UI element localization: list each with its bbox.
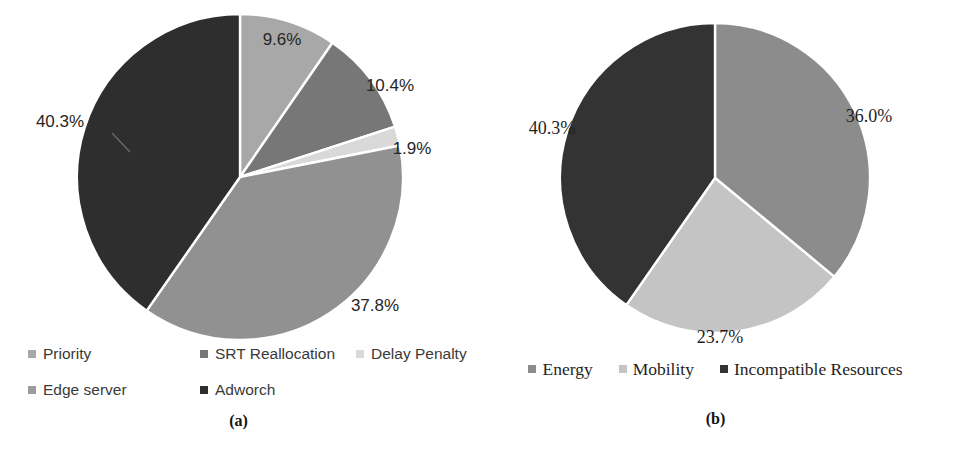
legend-item-energy[interactable]: Energy — [528, 359, 592, 380]
pie-a-slices — [77, 14, 403, 340]
legend-item-srt-reallocation[interactable]: SRT Reallocation — [200, 345, 356, 363]
legend-label-delay-penalty: Delay Penalty — [371, 345, 467, 363]
legend-item-edge-server[interactable]: Edge server — [28, 381, 200, 399]
legend-label-priority: Priority — [43, 345, 91, 363]
legend-label-adworch: Adworch — [215, 381, 275, 399]
legend-swatch-mobility — [619, 365, 627, 373]
legend-swatch-priority — [28, 350, 36, 358]
legend-label-incompatible-resources: Incompatible Resources — [734, 359, 903, 380]
pie-a-legend-row-2: Edge server Adworch — [0, 372, 477, 408]
pie-chart-panel-b: 36.0% 23.7% 40.3% Energy Mobility Incomp… — [477, 0, 954, 458]
legend-label-energy: Energy — [542, 359, 592, 380]
pie-b-value-label-mobility: 23.7% — [697, 327, 744, 347]
legend-swatch-delay-penalty — [356, 350, 364, 358]
pie-a-value-label-adworch: 40.3% — [36, 112, 84, 131]
legend-swatch-adworch — [200, 386, 208, 394]
pie-b-legend-row-1: Energy Mobility Incompatible Resources — [477, 352, 954, 386]
pie-a-value-label-srt-reallocation: 10.4% — [366, 76, 414, 95]
pie-b-value-label-incompatible-resources: 40.3% — [529, 118, 576, 138]
pie-a-value-label-priority: 9.6% — [263, 30, 302, 49]
pie-chart-b-svg: 36.0% 23.7% 40.3% — [477, 0, 954, 458]
legend-item-adworch[interactable]: Adworch — [200, 381, 356, 399]
legend-item-priority[interactable]: Priority — [28, 345, 200, 363]
pie-chart-panel-a: 9.6% 10.4% 1.9% 37.8% 40.3% Priority SRT… — [0, 0, 477, 458]
legend-label-srt-reallocation: SRT Reallocation — [215, 345, 335, 363]
pie-a-value-label-edge-server: 37.8% — [351, 296, 399, 315]
pie-a-legend: Priority SRT Reallocation Delay Penalty … — [0, 336, 477, 408]
panel-caption-a: (a) — [0, 412, 477, 430]
pie-b-value-label-energy: 36.0% — [846, 106, 893, 126]
pie-a-legend-row-1: Priority SRT Reallocation Delay Penalty — [0, 336, 477, 372]
pie-b-legend: Energy Mobility Incompatible Resources — [477, 352, 954, 386]
pie-b-slices — [560, 23, 870, 333]
legend-swatch-incompatible-resources — [720, 365, 728, 373]
figure-root: 9.6% 10.4% 1.9% 37.8% 40.3% Priority SRT… — [0, 0, 954, 458]
legend-item-delay-penalty[interactable]: Delay Penalty — [356, 345, 467, 363]
legend-swatch-energy — [528, 365, 536, 373]
legend-swatch-srt-reallocation — [200, 350, 208, 358]
pie-a-value-label-delay-penalty: 1.9% — [393, 139, 432, 158]
legend-item-incompatible-resources[interactable]: Incompatible Resources — [720, 359, 903, 380]
panel-caption-b: (b) — [477, 410, 954, 428]
legend-label-edge-server: Edge server — [43, 381, 127, 399]
legend-swatch-edge-server — [28, 386, 36, 394]
legend-label-mobility: Mobility — [633, 359, 694, 380]
legend-item-mobility[interactable]: Mobility — [619, 359, 694, 380]
